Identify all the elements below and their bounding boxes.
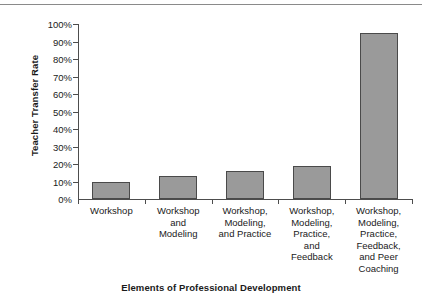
x-axis-category-label-line: Modeling,: [212, 217, 279, 229]
y-axis-tick-mark: [73, 112, 78, 113]
y-axis-tick-label: 70%: [53, 71, 72, 82]
bar-chart-figure: Teacher Transfer Rate 100%90%80%70%60%50…: [0, 0, 422, 302]
x-axis-category-label-line: Feedback,: [345, 240, 412, 252]
x-axis-tick-mark: [78, 199, 79, 204]
y-axis-tick-label: 20%: [53, 159, 72, 170]
x-axis-category-label-line: and Peer: [345, 251, 412, 263]
y-axis-tick-mark: [73, 94, 78, 95]
x-axis-category-label-line: Workshop,: [212, 205, 279, 217]
x-axis-category-label-line: Practice,: [278, 228, 345, 240]
x-axis-line: [78, 199, 412, 200]
x-axis-category-label: Workshop,Modeling,Practice,andFeedback: [278, 205, 345, 263]
x-axis-category-label: Workshop,Modeling,and Practice: [212, 205, 279, 240]
x-axis-category-label: Workshop,Modeling,Practice,Feedback,and …: [345, 205, 412, 275]
bar: [92, 182, 130, 200]
x-axis-category-label-line: Practice,: [345, 228, 412, 240]
x-axis-category-label-line: and Practice: [212, 228, 279, 240]
x-axis-tick-mark: [145, 199, 146, 204]
y-axis-tick-label: 60%: [53, 89, 72, 100]
y-axis-tick-label: 100%: [48, 19, 72, 30]
x-axis-category-label-line: Modeling: [145, 228, 212, 240]
y-axis-tick-mark: [73, 129, 78, 130]
bar: [159, 176, 197, 199]
x-axis-category-label-line: Feedback: [278, 251, 345, 263]
y-axis-tick-mark: [73, 164, 78, 165]
y-axis-tick-mark: [73, 42, 78, 43]
x-axis-tick-mark: [412, 199, 413, 204]
x-axis-category-label-line: Workshop: [78, 205, 145, 217]
y-axis-tick-labels: 100%90%80%70%60%50%40%30%20%10%0%: [0, 0, 72, 302]
x-axis-category-label-line: and: [145, 217, 212, 229]
y-axis-tick-label: 10%: [53, 176, 72, 187]
x-axis-category-label-line: Workshop: [145, 205, 212, 217]
y-axis-tick-mark: [73, 147, 78, 148]
x-axis-category-label-line: Workshop,: [278, 205, 345, 217]
x-axis-tick-mark: [278, 199, 279, 204]
y-axis-tick-label: 30%: [53, 141, 72, 152]
bar: [360, 33, 398, 199]
y-axis-tick-label: 50%: [53, 106, 72, 117]
bar: [293, 166, 331, 199]
x-axis-category-label-line: Modeling,: [345, 217, 412, 229]
x-axis-category-label-line: Modeling,: [278, 217, 345, 229]
x-axis-category-label: WorkshopandModeling: [145, 205, 212, 240]
x-axis-tick-mark: [212, 199, 213, 204]
x-axis-title: Elements of Professional Development: [0, 282, 422, 293]
x-axis-category-label: Workshop: [78, 205, 145, 217]
x-axis-category-label-line: Workshop,: [345, 205, 412, 217]
x-axis-category-label-line: and: [278, 240, 345, 252]
y-axis-tick-label: 40%: [53, 124, 72, 135]
x-axis-tick-mark: [345, 199, 346, 204]
x-axis-category-label-line: Coaching: [345, 263, 412, 275]
y-axis-tick-label: 0%: [58, 194, 72, 205]
y-axis-tick-mark: [73, 59, 78, 60]
bar: [226, 171, 264, 199]
y-axis-tick-mark: [73, 77, 78, 78]
y-axis-tick-mark: [73, 24, 78, 25]
y-axis-tick-label: 90%: [53, 36, 72, 47]
y-axis-tick-label: 80%: [53, 54, 72, 65]
y-axis-tick-mark: [73, 182, 78, 183]
